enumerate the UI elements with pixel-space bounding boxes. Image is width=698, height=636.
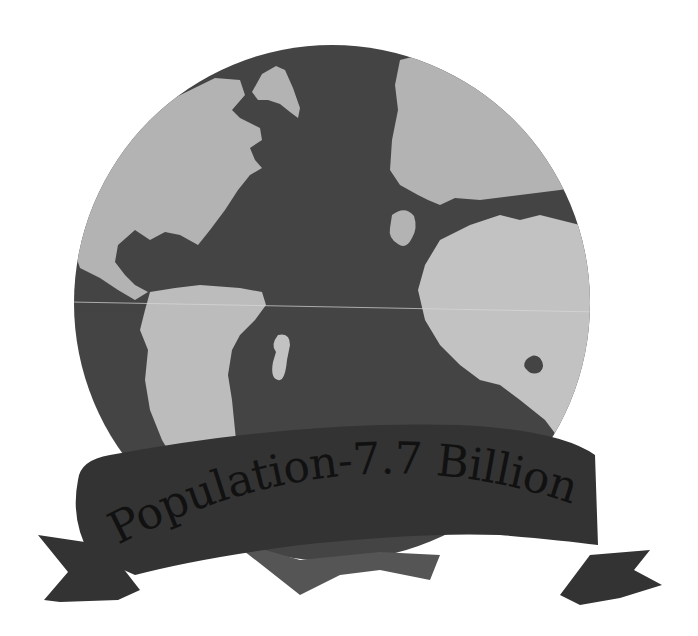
globe-banner-graphic: Population-7.7 Billion bbox=[0, 0, 698, 636]
banner-right-tail bbox=[560, 550, 662, 605]
illustration: Population-7.7 Billion bbox=[0, 0, 698, 636]
continent-eurasia bbox=[390, 52, 610, 205]
ribbon-banner: Population-7.7 Billion bbox=[38, 424, 662, 605]
